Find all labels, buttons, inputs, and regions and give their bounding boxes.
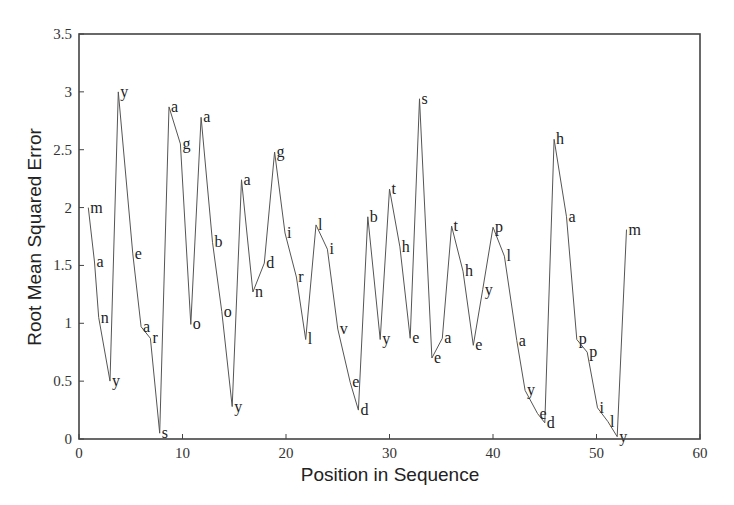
x-axis-title: Position in Sequence	[301, 464, 480, 485]
point-letter-label: e	[352, 373, 359, 390]
x-tick-label: 0	[75, 445, 83, 461]
point-letter-label: a	[97, 253, 104, 270]
point-letter-label: y	[527, 381, 535, 399]
point-letter-label: p	[579, 330, 587, 348]
point-letter-label: p	[589, 343, 597, 361]
point-letter-label: n	[255, 283, 263, 300]
y-tick-label: 3.5	[53, 26, 72, 42]
x-tick-label: 10	[175, 445, 190, 461]
point-letter-label: a	[568, 208, 575, 225]
point-letter-label: r	[152, 329, 158, 346]
y-tick-label: 2	[65, 200, 73, 216]
point-letter-label: d	[360, 401, 368, 418]
point-letter-label: b	[370, 208, 378, 225]
point-letter-label: l	[308, 330, 313, 347]
point-letter-label: d	[266, 254, 274, 271]
y-axis-title: Root Mean Squared Error	[24, 128, 45, 346]
x-tick-label: 60	[693, 445, 708, 461]
x-tick-label: 50	[589, 445, 604, 461]
point-letter-label: y	[382, 330, 390, 348]
point-letter-label: a	[171, 98, 178, 115]
point-letter-label: n	[101, 309, 109, 326]
point-letter-label: a	[203, 108, 210, 125]
point-letter-label: p	[495, 218, 503, 236]
point-letter-label: i	[287, 224, 292, 241]
point-letter-label: i	[600, 399, 605, 416]
point-letter-label: l	[318, 216, 323, 233]
point-letter-label: o	[193, 315, 201, 332]
point-letter-label: e	[412, 329, 419, 346]
point-letter-label: h	[465, 262, 473, 279]
x-tick-label: 30	[382, 445, 397, 461]
point-letter-label: l	[506, 247, 511, 264]
point-letter-label: a	[143, 318, 150, 335]
point-letter-label: g	[277, 143, 285, 161]
y-tick-label: 3	[65, 84, 73, 100]
point-letter-label: s	[422, 90, 428, 107]
point-letter-label: e	[135, 245, 142, 262]
axis-ticks	[79, 34, 700, 439]
point-letter-label: a	[519, 332, 526, 349]
point-letter-label: e	[540, 405, 547, 422]
point-letter-label: m	[629, 221, 642, 238]
point-letter-label: g	[182, 135, 190, 153]
point-letter-label: h	[556, 130, 564, 147]
point-letter-label: y	[120, 83, 128, 101]
point-letter-label: o	[224, 303, 232, 320]
point-letter-label: t	[392, 180, 397, 197]
point-letter-label: i	[329, 240, 334, 257]
x-tick-label: 40	[486, 445, 501, 461]
point-letter-label: y	[112, 372, 120, 390]
y-tick-label: 2.5	[53, 142, 72, 158]
y-tick-label: 1.5	[53, 257, 72, 273]
point-letter-label: l	[610, 413, 615, 430]
point-letter-label: y	[485, 281, 493, 299]
point-letter-label: a	[243, 171, 250, 188]
point-letter-label: d	[547, 414, 555, 431]
point-letter-label: m	[90, 199, 103, 216]
point-letter-label: t	[454, 217, 459, 234]
point-letter-label: v	[340, 320, 348, 337]
y-tick-label: 0.5	[53, 373, 72, 389]
point-letter-label: y	[619, 428, 627, 446]
plot-frame	[79, 34, 700, 439]
axis-tick-labels: 00.511.522.533.50102030405060	[53, 26, 707, 461]
point-letter-label: r	[298, 268, 304, 285]
x-tick-label: 20	[279, 445, 294, 461]
rmse-line-chart: 00.511.522.533.50102030405060 manyyearsa…	[0, 0, 734, 505]
point-letter-label: e	[434, 349, 441, 366]
point-letter-label: e	[475, 336, 482, 353]
point-letter-label: a	[444, 329, 451, 346]
point-letter-label: h	[402, 238, 410, 255]
point-letter-label: y	[234, 398, 242, 416]
y-tick-label: 0	[65, 431, 73, 447]
point-letter-label: b	[215, 233, 223, 250]
y-tick-label: 1	[65, 315, 73, 331]
